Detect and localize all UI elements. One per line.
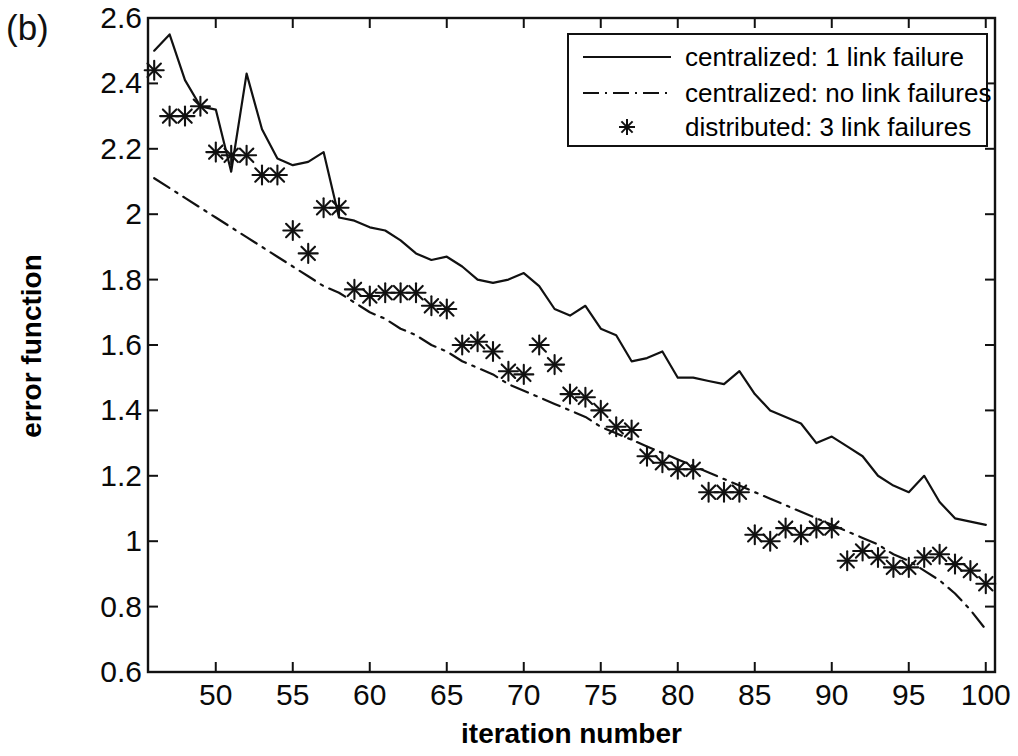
legend-item-distributed-3-link-failures: distributed: 3 link failures	[569, 109, 986, 145]
legend-swatch-asterisk-marker	[577, 112, 685, 142]
legend: centralized: 1 link failure centralized:…	[567, 33, 988, 147]
legend-swatch-solid-line	[577, 42, 685, 72]
legend-label-1: centralized: no link failures	[685, 78, 991, 109]
legend-swatch-dashdot-line	[577, 78, 685, 108]
legend-item-centralized-1-link-failure: centralized: 1 link failure	[569, 39, 986, 75]
legend-label-0: centralized: 1 link failure	[685, 42, 964, 73]
figure-panel-b: (b) error function iteration number 0.60…	[0, 0, 1018, 756]
legend-item-centralized-no-link-failures: centralized: no link failures	[569, 75, 986, 111]
legend-label-2: distributed: 3 link failures	[685, 112, 971, 143]
